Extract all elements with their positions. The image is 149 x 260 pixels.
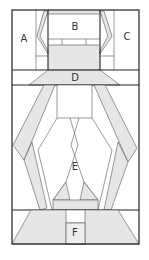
central-square — [57, 85, 92, 118]
label-a: A — [21, 33, 28, 44]
label-f: F — [72, 227, 78, 238]
label-e: E — [72, 161, 78, 172]
left-chevron-shape — [37, 11, 48, 54]
right-outer-band — [94, 85, 137, 162]
left-inner-band — [24, 142, 47, 210]
left-outer-band — [13, 85, 55, 160]
region-e-bottom-bar — [53, 200, 98, 210]
diagram-canvas: A B C D E F — [0, 0, 149, 260]
label-d: D — [71, 72, 79, 83]
label-b: B — [72, 21, 79, 32]
right-chevron-shape — [100, 11, 112, 54]
region-b-lower-fill — [48, 45, 100, 70]
label-c: C — [124, 31, 131, 42]
